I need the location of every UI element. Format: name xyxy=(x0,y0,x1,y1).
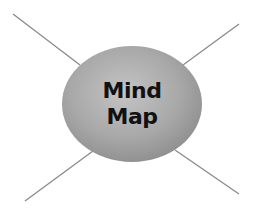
center-label-line-1: Mind xyxy=(103,78,162,104)
center-label-line-2: Map xyxy=(107,104,158,130)
center-node-label: Mind Map xyxy=(62,46,202,162)
